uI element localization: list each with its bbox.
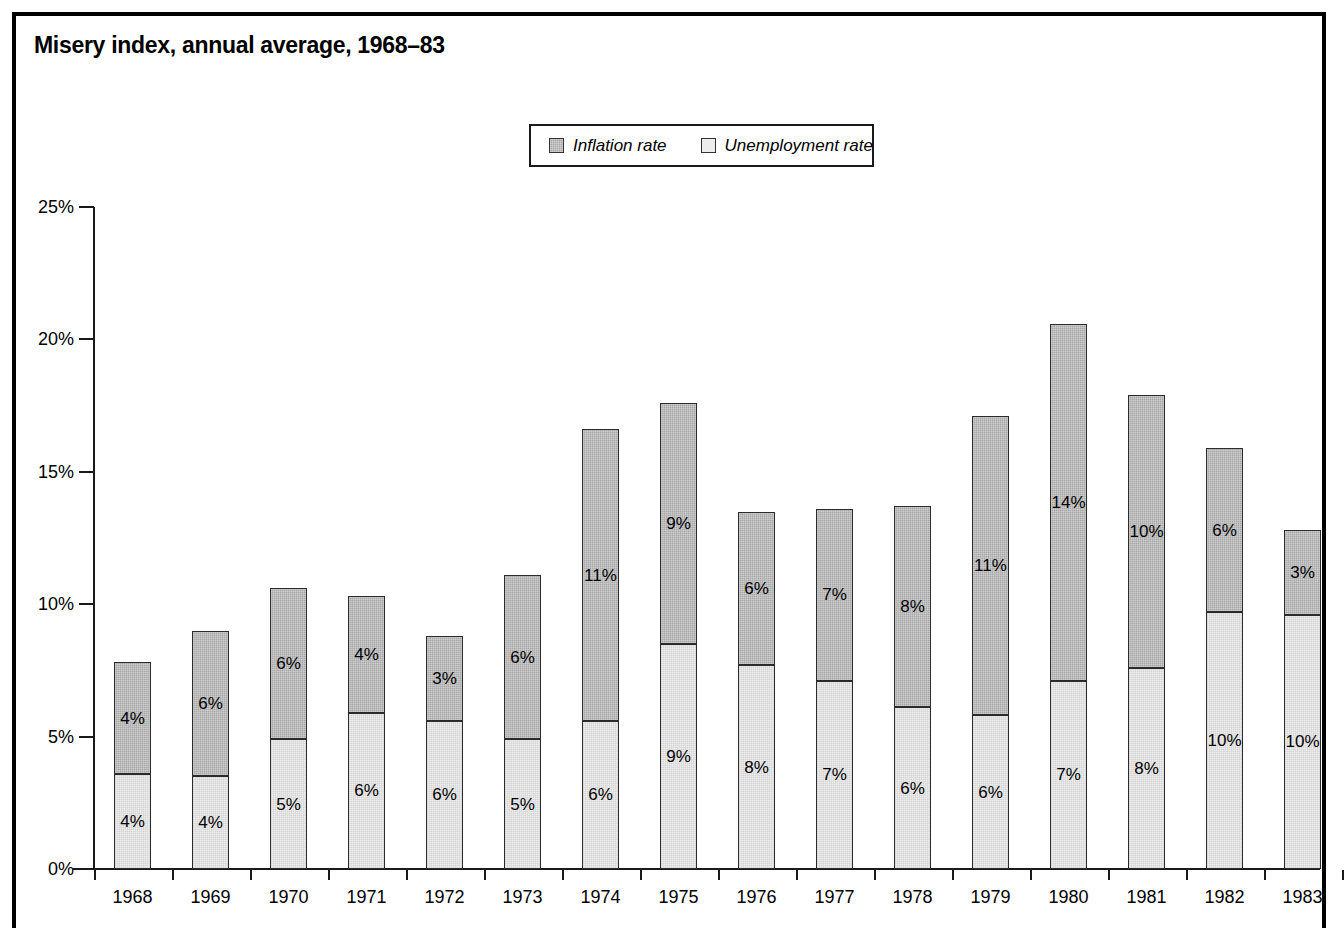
bar-group[interactable]: 9%9% [660, 403, 697, 869]
bar-segment-inflation[interactable]: 6% [1206, 448, 1243, 612]
bar-segment-label: 8% [900, 598, 925, 615]
x-tick-label: 1983 [1263, 888, 1343, 906]
x-tick-mark [952, 870, 954, 880]
bar-segment-label: 11% [584, 567, 617, 584]
x-tick-label: 1982 [1185, 888, 1265, 906]
x-tick-label: 1974 [561, 888, 641, 906]
bar-segment-inflation[interactable]: 6% [192, 631, 229, 777]
y-tick-mark [79, 868, 94, 870]
bar-segment-label: 10% [1285, 733, 1319, 750]
y-tick-label: 5% [48, 728, 74, 746]
bar-segment-label: 6% [354, 782, 379, 799]
y-tick-label: 20% [38, 330, 74, 348]
bar-segment-unemployment[interactable]: 4% [192, 776, 229, 869]
y-tick-label: 10% [38, 595, 74, 613]
x-tick-label: 1972 [405, 888, 485, 906]
x-tick-label: 1979 [951, 888, 1031, 906]
bar-segment-label: 3% [432, 670, 457, 687]
bar-segment-label: 8% [1134, 760, 1159, 777]
bar-group[interactable]: 14%7% [1050, 324, 1087, 869]
bar-group[interactable]: 11%6% [972, 416, 1009, 869]
bar-segment-inflation[interactable]: 7% [816, 509, 853, 681]
bar-segment-label: 10% [1207, 732, 1241, 749]
x-tick-label: 1973 [483, 888, 563, 906]
bar-segment-unemployment[interactable]: 10% [1284, 615, 1321, 869]
bar-group[interactable]: 6%5% [504, 575, 541, 869]
bar-segment-unemployment[interactable]: 10% [1206, 612, 1243, 869]
y-tick-label: 25% [38, 198, 74, 216]
bar-segment-label: 7% [822, 586, 847, 603]
x-tick-label: 1970 [249, 888, 329, 906]
x-tick-label: 1977 [795, 888, 875, 906]
bar-segment-label: 6% [432, 786, 457, 803]
bar-segment-label: 9% [666, 748, 691, 765]
bar-segment-label: 4% [198, 814, 223, 831]
bar-group[interactable]: 4%4% [114, 662, 151, 869]
x-tick-mark [1030, 870, 1032, 880]
bar-segment-label: 7% [822, 766, 847, 783]
bar-segment-inflation[interactable]: 6% [738, 512, 775, 666]
bar-group[interactable]: 6%10% [1206, 448, 1243, 869]
bar-segment-unemployment[interactable]: 5% [504, 739, 541, 869]
bar-group[interactable]: 6%8% [738, 512, 775, 869]
plot-area: 0%5%10%15%20%25% 19681969197019711972197… [16, 16, 1330, 928]
bar-segment-inflation[interactable]: 11% [972, 416, 1009, 715]
bar-segment-inflation[interactable]: 10% [1128, 395, 1165, 668]
bar-segment-label: 6% [276, 655, 301, 672]
bar-segment-unemployment[interactable]: 7% [1050, 681, 1087, 869]
bar-segment-unemployment[interactable]: 6% [582, 721, 619, 869]
bar-segment-inflation[interactable]: 4% [114, 662, 151, 773]
y-axis-line [93, 207, 95, 869]
bar-segment-unemployment[interactable]: 7% [816, 681, 853, 869]
x-tick-label: 1968 [93, 888, 173, 906]
bar-segment-label: 9% [666, 515, 691, 532]
x-tick-mark [640, 870, 642, 880]
bar-segment-inflation[interactable]: 3% [1284, 530, 1321, 615]
x-tick-label: 1975 [639, 888, 719, 906]
bar-group[interactable]: 3%6% [426, 636, 463, 869]
bar-segment-unemployment[interactable]: 8% [1128, 668, 1165, 869]
bar-segment-unemployment[interactable]: 8% [738, 665, 775, 869]
bar-group[interactable]: 4%6% [348, 596, 385, 869]
bar-segment-label: 6% [900, 780, 925, 797]
y-tick-mark [79, 206, 94, 208]
bar-segment-inflation[interactable]: 6% [270, 588, 307, 739]
bar-segment-label: 6% [978, 784, 1003, 801]
bar-group[interactable]: 3%10% [1284, 530, 1321, 869]
bar-segment-inflation[interactable]: 8% [894, 506, 931, 707]
bar-segment-unemployment[interactable]: 5% [270, 739, 307, 869]
bar-segment-label: 4% [120, 710, 145, 727]
bar-group[interactable]: 11%6% [582, 429, 619, 869]
bar-segment-inflation[interactable]: 3% [426, 636, 463, 721]
bar-group[interactable]: 7%7% [816, 509, 853, 869]
bar-segment-inflation[interactable]: 6% [504, 575, 541, 739]
bar-group[interactable]: 8%6% [894, 506, 931, 869]
bar-segment-unemployment[interactable]: 4% [114, 774, 151, 869]
x-tick-mark [796, 870, 798, 880]
x-tick-label: 1980 [1029, 888, 1109, 906]
x-tick-mark [1186, 870, 1188, 880]
chart-figure-frame: Misery index, annual average, 1968–83 In… [12, 12, 1326, 928]
bar-segment-unemployment[interactable]: 6% [426, 721, 463, 869]
bar-segment-unemployment[interactable]: 9% [660, 644, 697, 869]
bar-segment-inflation[interactable]: 9% [660, 403, 697, 644]
x-tick-mark [1108, 870, 1110, 880]
bar-segment-inflation[interactable]: 4% [348, 596, 385, 713]
x-tick-label: 1981 [1107, 888, 1187, 906]
bar-segment-inflation[interactable]: 14% [1050, 324, 1087, 681]
bar-segment-label: 5% [510, 796, 535, 813]
bar-group[interactable]: 6%5% [270, 588, 307, 869]
bar-segment-unemployment[interactable]: 6% [894, 707, 931, 869]
x-tick-label: 1969 [171, 888, 251, 906]
x-tick-label: 1971 [327, 888, 407, 906]
bar-segment-label: 4% [120, 813, 145, 830]
bar-segment-unemployment[interactable]: 6% [348, 713, 385, 869]
bar-segment-label: 10% [1129, 523, 1163, 540]
x-tick-mark [718, 870, 720, 880]
bar-segment-inflation[interactable]: 11% [582, 429, 619, 720]
bar-segment-label: 6% [198, 695, 223, 712]
bar-group[interactable]: 6%4% [192, 631, 229, 869]
bar-segment-label: 7% [1056, 766, 1081, 783]
bar-group[interactable]: 10%8% [1128, 395, 1165, 869]
bar-segment-unemployment[interactable]: 6% [972, 715, 1009, 869]
